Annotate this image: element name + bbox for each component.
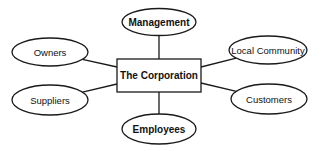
edge-corporation-customers (201, 83, 236, 91)
node-employees: Employees (122, 114, 196, 144)
local-community-label: Local Community (231, 45, 305, 56)
customers-label: Customers (246, 94, 292, 105)
stakeholder-diagram: The Corporation ManagementOwnersLocal Co… (0, 0, 319, 151)
node-local-community: Local Community (229, 36, 307, 64)
edge-corporation-owners (82, 59, 117, 67)
edge-corporation-local-community (201, 58, 236, 67)
nodes-layer: The Corporation ManagementOwnersLocal Co… (12, 9, 307, 145)
node-suppliers: Suppliers (12, 85, 88, 115)
node-owners: Owners (12, 38, 88, 66)
management-label: Management (128, 17, 190, 28)
node-management: Management (122, 9, 196, 36)
employees-label: Employees (133, 124, 186, 135)
node-customers: Customers (231, 84, 307, 114)
corporation-label: The Corporation (120, 70, 198, 81)
suppliers-label: Suppliers (30, 95, 70, 106)
edge-corporation-suppliers (83, 84, 117, 92)
owners-label: Owners (34, 47, 67, 58)
